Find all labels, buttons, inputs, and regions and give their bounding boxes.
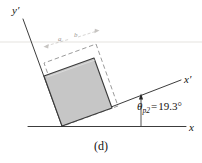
dimension-leader-right bbox=[78, 31, 97, 37]
angle-degree-unit: ° bbox=[177, 100, 181, 112]
stress-element-fill bbox=[44, 58, 112, 126]
stress-element-shape bbox=[44, 58, 112, 126]
angle-equals-sign: = bbox=[150, 100, 158, 112]
dimension-arrow-right bbox=[94, 29, 99, 34]
dimension-label-b: b bbox=[74, 32, 78, 39]
dimension-arrow-left bbox=[44, 44, 49, 49]
y-prime-axis-label: y′ bbox=[12, 5, 19, 16]
x-prime-axis-label: x′ bbox=[184, 74, 191, 85]
x-axis-label: x bbox=[189, 122, 194, 133]
angle-annotation: θp2=19.3° bbox=[137, 101, 182, 115]
dimension-label-a: a bbox=[58, 36, 62, 43]
angle-subscript: p2 bbox=[142, 106, 150, 115]
angle-value: 19.3 bbox=[158, 100, 177, 112]
figure-panel-d: y′ x′ x a b θp2=19.3° (d) bbox=[0, 0, 202, 163]
panel-caption: (d) bbox=[0, 140, 202, 152]
